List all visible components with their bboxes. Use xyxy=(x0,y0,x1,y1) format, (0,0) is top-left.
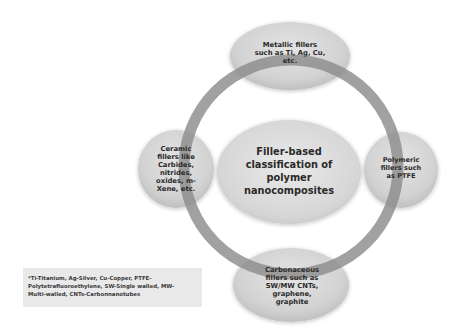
center-node-label: Filler-based classification of polymer n… xyxy=(217,122,361,222)
node-carbonaceous-label: Carbonaceous fillers such as SW/MW CNTs,… xyxy=(238,256,346,316)
node-metallic-label: Metallic fillers such as Ti, Ag, Cu, etc… xyxy=(232,32,348,74)
abbreviations-footnote: *Ti-Titanium, Ag-Silver, Cu-Copper, PTFE… xyxy=(23,268,202,307)
node-polymeric-label: Polymeric fillers such as PTFE xyxy=(366,150,436,188)
node-ceramic-label: Ceramic fillers like Carbides, nitrides,… xyxy=(140,134,212,204)
diagram-canvas: Filler-based classification of polymer n… xyxy=(0,0,457,335)
